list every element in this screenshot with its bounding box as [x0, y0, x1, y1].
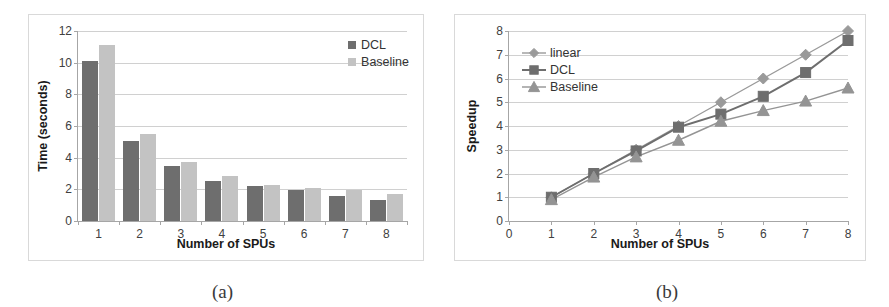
chart-a-x-axis-title: Number of SPUs	[29, 238, 423, 251]
chart-b-y-tick-label: 7	[496, 49, 503, 61]
chart-b-legend-item: DCL	[521, 62, 598, 79]
chart-b-legend-item: Baseline	[521, 79, 598, 96]
chart-a-x-tick-mark	[407, 221, 408, 225]
chart-a-bar-dcl	[123, 141, 139, 221]
chart-a-x-tick-mark	[243, 221, 244, 225]
chart-a-bar-baseline	[222, 176, 238, 221]
chart-b-legend-label: linear	[550, 45, 581, 62]
chart-b-y-tick-label: 6	[496, 73, 503, 85]
chart-b-y-tick-label: 8	[496, 25, 503, 37]
legend-marker-linear-icon	[521, 47, 547, 59]
chart-a-x-tick-mark	[78, 221, 79, 225]
chart-a-x-tick-mark	[284, 221, 285, 225]
chart-a-bar-group	[243, 31, 284, 221]
chart-a-y-tick-label: 12	[59, 25, 72, 37]
chart-b-y-tick-label: 1	[496, 191, 503, 203]
chart-a-bar-dcl	[370, 200, 386, 221]
legend-swatch-baseline-icon	[348, 58, 356, 66]
chart-b-legend-label: Baseline	[550, 79, 598, 96]
chart-a-bar-baseline	[181, 162, 197, 221]
chart-a-legend: DCLBaseline	[348, 37, 409, 71]
subfigure-a: 02468101212345678 Time (seconds) Number …	[0, 0, 445, 307]
chart-a-bar-dcl	[82, 61, 98, 221]
chart-a-x-tick-mark	[366, 221, 367, 225]
chart-b-y-axis-title: Speedup	[466, 91, 479, 161]
chart-b-y-tick-label: 3	[496, 144, 503, 156]
chart-a-frame: 02468101212345678 Time (seconds) Number …	[28, 14, 424, 261]
chart-b-marker-baseline	[800, 95, 812, 106]
legend-swatch-dcl-icon	[348, 41, 356, 49]
chart-a-legend-item: DCL	[348, 37, 409, 54]
figure-row: 02468101212345678 Time (seconds) Number …	[0, 0, 889, 307]
chart-b-marker-linear	[843, 26, 854, 37]
chart-b-marker-linear	[758, 73, 769, 84]
chart-a-bar-group	[201, 31, 242, 221]
chart-a-legend-label: DCL	[361, 37, 386, 54]
chart-b-legend-item: linear	[521, 45, 598, 62]
chart-a-bar-baseline	[387, 194, 403, 221]
chart-a-bar-baseline	[140, 134, 156, 221]
chart-b-marker-dcl	[801, 68, 811, 78]
chart-a-bar-dcl	[164, 166, 180, 221]
chart-b-marker-linear	[800, 49, 811, 60]
chart-a-y-tick-label: 2	[65, 183, 72, 195]
subcaption-a: (a)	[0, 282, 445, 301]
chart-a-x-tick-mark	[201, 221, 202, 225]
chart-b-legend: linearDCLBaseline	[521, 45, 598, 96]
chart-a-legend-item: Baseline	[348, 54, 409, 71]
chart-a-bar-group	[160, 31, 201, 221]
chart-b-y-tick-label: 0	[496, 215, 503, 227]
chart-a-y-tick-label: 4	[65, 152, 72, 164]
chart-a-bar-dcl	[288, 190, 304, 221]
chart-a-bar-dcl	[329, 196, 345, 221]
chart-a-bar-group	[284, 31, 325, 221]
chart-b-marker-dcl	[674, 122, 684, 132]
chart-a-y-tick-label: 6	[65, 120, 72, 132]
chart-a-bar-baseline	[305, 188, 321, 221]
chart-a-bar-baseline	[346, 190, 362, 221]
chart-b-marker-dcl	[843, 36, 853, 46]
chart-a-bar-baseline	[99, 45, 115, 221]
chart-a-y-tick-label: 10	[59, 57, 72, 69]
chart-a-x-tick-mark	[325, 221, 326, 225]
chart-a-y-tick-label: 8	[65, 88, 72, 100]
chart-a-y-tick-label: 0	[65, 215, 72, 227]
chart-b-y-tick-label: 5	[496, 96, 503, 108]
chart-b-marker-dcl	[758, 91, 768, 101]
chart-a-y-axis-title: Time (seconds)	[37, 76, 50, 176]
chart-b-marker-baseline	[673, 134, 685, 145]
legend-marker-baseline-icon	[521, 81, 547, 93]
chart-b-frame: 012345678012345678 Speedup Number of SPU…	[454, 14, 866, 261]
subfigure-b: 012345678012345678 Speedup Number of SPU…	[445, 0, 889, 307]
chart-a-x-tick-mark	[119, 221, 120, 225]
chart-a-x-tick-mark	[160, 221, 161, 225]
chart-b-x-axis-title: Number of SPUs	[455, 238, 865, 251]
chart-b-legend-label: DCL	[550, 62, 575, 79]
chart-a-bar-group	[78, 31, 119, 221]
chart-b-marker-baseline	[842, 82, 854, 93]
chart-b-y-tick-label: 2	[496, 168, 503, 180]
legend-marker-dcl-icon	[521, 64, 547, 76]
chart-a-legend-label: Baseline	[361, 54, 409, 71]
chart-a-bar-dcl	[205, 181, 221, 221]
chart-b-y-tick-label: 4	[496, 120, 503, 132]
chart-a-bar-dcl	[247, 186, 263, 221]
chart-b-marker-linear	[715, 97, 726, 108]
subcaption-b: (b)	[445, 282, 889, 301]
chart-a-bar-group	[119, 31, 160, 221]
chart-a-bar-baseline	[264, 185, 280, 221]
